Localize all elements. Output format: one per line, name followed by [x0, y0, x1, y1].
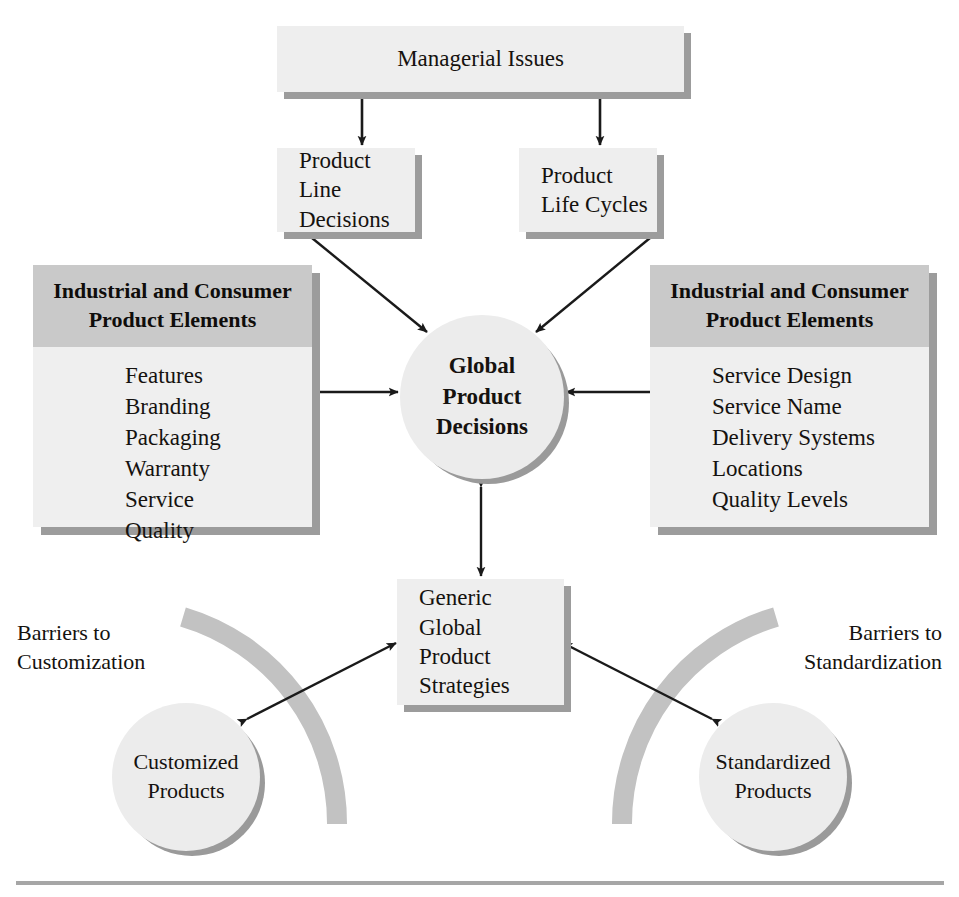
list-item: Service Design [712, 361, 929, 392]
list-item: Delivery Systems [712, 423, 929, 454]
global-product-decisions-label: Global Product Decisions [436, 351, 528, 443]
left-panel-header: Industrial and Consumer Product Elements [33, 265, 312, 347]
right-panel-header: Industrial and Consumer Product Elements [650, 265, 929, 347]
list-item: Warranty [125, 454, 312, 485]
right-product-elements-panel[interactable]: Industrial and Consumer Product Elements… [650, 265, 929, 527]
left-product-elements-panel[interactable]: Industrial and Consumer Product Elements… [33, 265, 312, 527]
list-item: Service Name [712, 392, 929, 423]
list-item: Quality [125, 516, 312, 547]
global-product-decisions-circle[interactable]: Global Product Decisions [400, 315, 564, 479]
arrow-customized-to-strategies [247, 643, 396, 719]
standardized-products-circle[interactable]: Standardized Products [699, 703, 847, 851]
right-panel-list: Service Design Service Name Delivery Sys… [650, 361, 929, 516]
product-life-cycles-label: Product Life Cycles [541, 161, 648, 220]
product-line-decisions-box[interactable]: Product Line Decisions [277, 148, 415, 232]
standardized-products-label: Standardized Products [716, 748, 831, 805]
diagram-canvas: Managerial Issues Product Line Decisions… [0, 0, 959, 897]
customized-products-label: Customized Products [133, 748, 238, 805]
right-panel-body: Service Design Service Name Delivery Sys… [650, 347, 929, 516]
product-life-cycles-box[interactable]: Product Life Cycles [519, 148, 657, 232]
barriers-to-standardization-label: Barriers to Standardization [804, 620, 942, 674]
list-item: Packaging [125, 423, 312, 454]
generic-global-product-strategies-label: Generic Global Product Strategies [419, 583, 510, 701]
product-line-decisions-label: Product Line Decisions [299, 146, 415, 234]
arrow-life-cycles-to-center [536, 238, 650, 332]
list-item: Service [125, 485, 312, 516]
arrow-product-line-to-center [312, 238, 427, 332]
customized-products-circle[interactable]: Customized Products [112, 703, 260, 851]
barriers-to-standardization-caption: Barriers to Standardization [682, 589, 942, 676]
list-item: Features [125, 361, 312, 392]
list-item: Branding [125, 392, 312, 423]
barriers-to-customization-label: Barriers to Customization [17, 620, 145, 674]
list-item: Locations [712, 454, 929, 485]
list-item: Quality Levels [712, 485, 929, 516]
managerial-issues-label: Managerial Issues [397, 44, 564, 73]
left-panel-list: Features Branding Packaging Warranty Ser… [33, 361, 312, 547]
barriers-to-customization-caption: Barriers to Customization [17, 589, 237, 676]
bottom-divider-rule [16, 881, 944, 885]
generic-global-product-strategies-box[interactable]: Generic Global Product Strategies [397, 579, 564, 705]
left-panel-body: Features Branding Packaging Warranty Ser… [33, 347, 312, 547]
managerial-issues-box[interactable]: Managerial Issues [277, 26, 684, 92]
